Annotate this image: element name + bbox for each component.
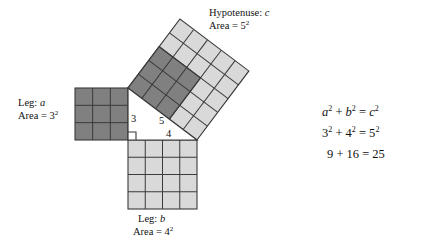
leg-a-label-var: a — [40, 97, 45, 108]
svg-text:Area = 32: Area = 32 — [18, 109, 59, 121]
hypotenuse-label-var: c — [265, 7, 270, 18]
figure-canvas: 3 5 4 Hypotenuse: c Area = 52 Leg: a Are… — [0, 0, 423, 251]
equation-numeric-sum: 9 + 16 = 25 — [327, 147, 385, 161]
equation-block: a2 + b2 = c2 32 + 42 = 52 9 + 16 = 25 — [322, 104, 385, 161]
hypotenuse-label: Hypotenuse: c Area = 52 — [209, 7, 270, 31]
leg-a-area-exponent: 2 — [55, 109, 59, 117]
leg-a-area-text: Area = 3 — [18, 110, 55, 121]
leg-a-label: Leg: a Area = 32 — [18, 97, 59, 121]
leg-b-square — [128, 140, 197, 209]
leg-b-area-exponent: 2 — [170, 225, 174, 233]
leg-b-label-prefix: Leg: — [138, 213, 160, 224]
hypotenuse-area-text: Area = 5 — [209, 20, 246, 31]
svg-text:Area = 42: Area = 42 — [133, 225, 174, 237]
hypotenuse-label-prefix: Hypotenuse: — [209, 7, 265, 18]
leg-b-label: Leg: b Area = 42 — [133, 213, 174, 237]
leg-a-label-prefix: Leg: — [18, 97, 40, 108]
leg-a-square — [75, 88, 128, 140]
svg-text:Leg: b: Leg: b — [138, 213, 165, 224]
side-label-c: 5 — [159, 115, 164, 126]
svg-text:Area = 52: Area = 52 — [209, 19, 250, 31]
side-label-a: 3 — [131, 113, 136, 124]
pythagorean-diagram: 3 5 4 Hypotenuse: c Area = 52 Leg: a Are… — [0, 0, 423, 251]
leg-b-label-var: b — [160, 213, 165, 224]
svg-text:Hypotenuse: c: Hypotenuse: c — [209, 7, 270, 18]
side-label-b: 4 — [166, 128, 172, 139]
leg-b-area-text: Area = 4 — [133, 226, 171, 237]
hypotenuse-area-exponent: 2 — [246, 19, 250, 27]
equation-numeric-squares: 32 + 42 = 52 — [322, 125, 379, 140]
equation-symbolic: a2 + b2 = c2 — [322, 104, 379, 119]
svg-text:Leg: a: Leg: a — [18, 97, 45, 108]
